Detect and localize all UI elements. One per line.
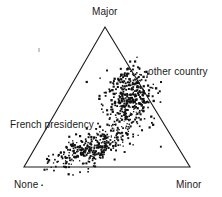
scan-artifact-speck	[38, 48, 40, 52]
annotation-other-country: other country	[148, 66, 208, 78]
plot-canvas	[0, 0, 222, 197]
ternary-scatter-figure: Major None Minor other country French pr…	[0, 0, 222, 197]
axis-label-minor: Minor	[176, 179, 202, 191]
scatter-cluster-french-presidency	[41, 124, 138, 186]
annotation-french-presidency: French presidency	[10, 119, 94, 131]
axis-label-none: None	[14, 179, 38, 191]
axis-label-major: Major	[92, 6, 118, 18]
